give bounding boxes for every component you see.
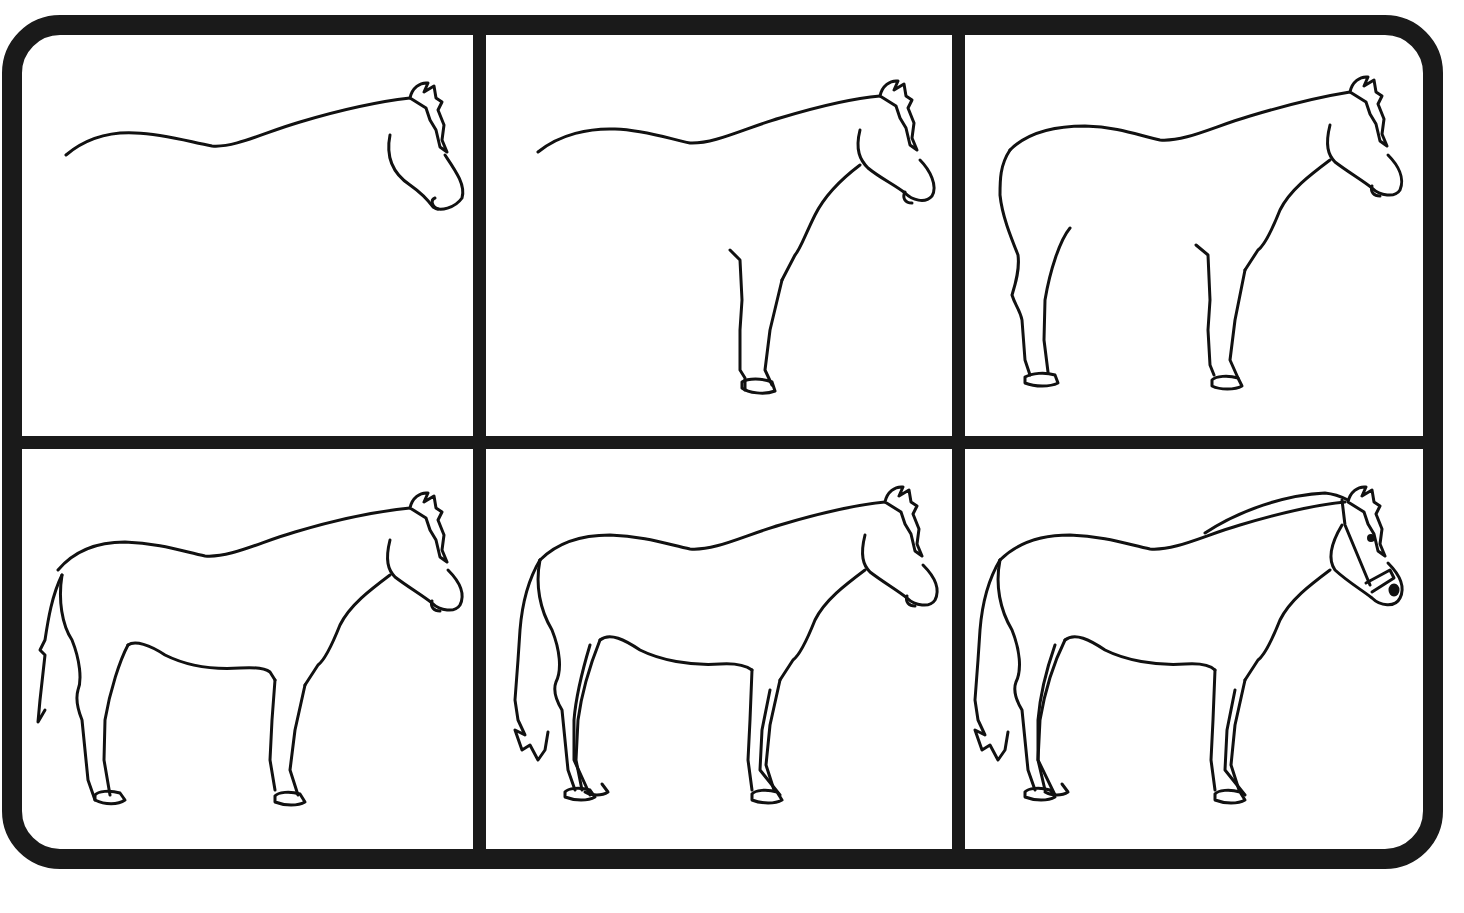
step-4-drawing bbox=[38, 493, 462, 805]
step-1-drawing bbox=[66, 83, 463, 209]
step-3-drawing bbox=[1000, 77, 1402, 389]
step-5-drawing bbox=[515, 487, 937, 803]
tutorial-frame bbox=[0, 0, 1464, 913]
step-2-drawing bbox=[538, 81, 934, 393]
step-6-drawing bbox=[975, 487, 1402, 803]
divider-horizontal bbox=[15, 436, 1430, 449]
